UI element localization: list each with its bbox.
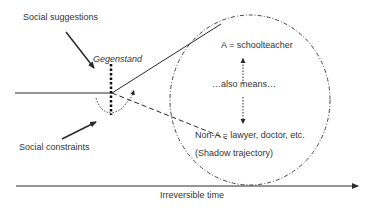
social-suggestions-label: Social suggestions (23, 12, 98, 22)
social-suggestions-arrow (66, 32, 94, 68)
social-constraints-label: Social constraints (19, 142, 90, 152)
also-means-label: …also means… (212, 79, 276, 89)
non-a-label: Non-A = lawyer, doctor, etc. (195, 130, 305, 140)
diagram-canvas (0, 0, 370, 208)
a-equals-label: A = schoolteacher (221, 40, 293, 50)
gegenstand-label: Gegenstand (93, 54, 142, 64)
social-constraints-arrow (62, 122, 96, 139)
time-axis-label: Irreversible time (160, 190, 224, 200)
shadow-trajectory-label: (Shadow trajectory) (195, 148, 273, 158)
